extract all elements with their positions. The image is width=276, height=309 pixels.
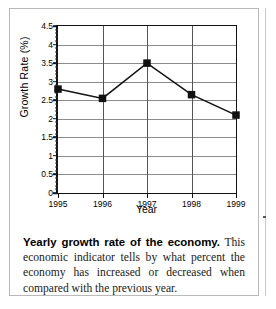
y-tick-label: 3: [48, 77, 53, 86]
x-tick: [236, 193, 237, 198]
x-axis-title: Year: [56, 203, 237, 215]
y-axis-title: Growth Rate (%): [18, 22, 34, 132]
data-point-marker: [188, 91, 196, 99]
page-right-tick-mark: [263, 216, 266, 218]
x-tick: [147, 193, 148, 198]
y-tick-label: 3.5: [41, 59, 53, 68]
y-tick-label: 0.5: [41, 170, 53, 179]
y-tick-label: 1: [48, 152, 53, 161]
growth-rate-line-chart: Growth Rate (%) 00.511.522.533.544.5 199…: [10, 9, 260, 221]
y-tick-label: 0: [48, 189, 53, 198]
data-point-marker: [143, 59, 151, 67]
y-tick-label: 1.5: [41, 133, 53, 142]
y-tick-label: 4.5: [41, 22, 53, 31]
data-point-marker: [232, 111, 240, 119]
y-tick-label: 2.5: [41, 96, 53, 105]
y-tick-label: 4: [48, 40, 53, 49]
x-tick: [58, 193, 59, 198]
figure-caption: Yearly growth rate of the economy. This …: [23, 235, 245, 296]
data-series: [58, 26, 236, 193]
data-point-marker: [54, 85, 62, 93]
data-point-marker: [99, 95, 107, 103]
x-tick: [192, 193, 193, 198]
x-tick: [103, 193, 104, 198]
figure-panel: Growth Rate (%) 00.511.522.533.544.5 199…: [9, 8, 259, 296]
y-tick-label: 2: [48, 115, 53, 124]
page-right-rule: [265, 8, 266, 296]
plot-area: 00.511.522.533.544.5 1995199619971998199…: [56, 25, 237, 194]
series-line: [58, 63, 236, 115]
caption-lead-in: Yearly growth rate of the economy.: [23, 236, 220, 248]
